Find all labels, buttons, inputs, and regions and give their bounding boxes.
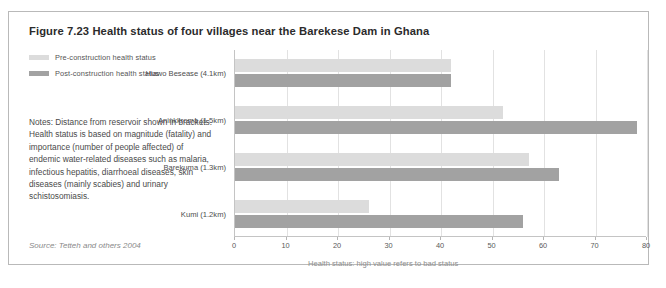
plot-region xyxy=(234,50,646,237)
legend-label-post-construction: Post-construction health status xyxy=(55,69,159,78)
tick-mark xyxy=(492,237,493,240)
figure-title: Figure 7.23 Health status of four villag… xyxy=(29,25,629,37)
legend-swatch-pre-construction xyxy=(29,55,49,60)
category-axis-labels: Hiawo Besease (4.1km)Aninkkroma (1.5km)B… xyxy=(148,50,230,237)
tick-label: 80 xyxy=(642,241,650,250)
bar-post-construction xyxy=(235,168,559,181)
bar-post-construction xyxy=(235,74,451,87)
tick-mark xyxy=(646,237,647,240)
tick-mark xyxy=(389,237,390,240)
bar-pre-construction xyxy=(235,59,451,72)
gridline xyxy=(647,50,648,237)
tick-label: 70 xyxy=(590,241,598,250)
x-axis-caption: Health status: high value refers to bad … xyxy=(308,259,458,268)
legend-label-pre-construction: Pre-construction health status xyxy=(55,53,156,62)
tick-label: 10 xyxy=(281,241,289,250)
tick-mark xyxy=(337,237,338,240)
category-label: Kumi (1.2km) xyxy=(181,209,226,218)
tick-mark xyxy=(595,237,596,240)
tick-label: 60 xyxy=(539,241,547,250)
bar-pre-construction xyxy=(235,200,369,213)
gridline xyxy=(596,50,597,237)
tick-label: 0 xyxy=(232,241,236,250)
bar-pre-construction xyxy=(235,106,503,119)
tick-mark xyxy=(234,237,235,240)
category-label: Aninkkroma (1.5km) xyxy=(158,116,226,125)
tick-mark xyxy=(543,237,544,240)
bar-post-construction xyxy=(235,121,637,134)
category-label: Barekuma (1.3km) xyxy=(164,162,226,171)
tick-mark xyxy=(440,237,441,240)
tick-label: 50 xyxy=(487,241,495,250)
legend-swatch-post-construction xyxy=(29,71,49,76)
tick-label: 40 xyxy=(436,241,444,250)
bar-post-construction xyxy=(235,215,523,228)
gridline xyxy=(544,50,545,237)
figure-frame: Figure 7.23 Health status of four villag… xyxy=(8,11,649,265)
gridline xyxy=(493,50,494,237)
tick-mark xyxy=(286,237,287,240)
tick-label: 30 xyxy=(384,241,392,250)
category-label: Hiawo Besease (4.1km) xyxy=(145,69,226,78)
bar-chart: Hiawo Besease (4.1km)Aninkkroma (1.5km)B… xyxy=(148,50,646,255)
tick-label: 20 xyxy=(333,241,341,250)
x-axis-ticks: 01020304050607080 xyxy=(234,237,646,253)
bar-pre-construction xyxy=(235,153,529,166)
plot-area xyxy=(234,50,646,237)
